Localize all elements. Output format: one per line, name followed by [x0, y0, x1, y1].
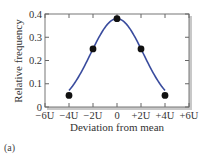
data-point	[114, 15, 121, 22]
y-tick-label: 0.1	[29, 78, 42, 89]
y-tick-label: 0.3	[29, 32, 42, 43]
x-tick-label: +6U	[180, 110, 199, 121]
x-tick-label: 0	[114, 110, 119, 121]
data-point	[66, 92, 73, 99]
chart: −6U−4U−2U0+2U+4U+6U00.10.20.30.4 Relativ…	[0, 0, 207, 159]
x-tick-label: −4U	[60, 110, 79, 121]
x-axis-title: Deviation from mean	[70, 121, 165, 133]
y-axis-title: Relative frequency	[12, 19, 24, 103]
panel-label: (a)	[4, 142, 15, 154]
x-tick-label: −2U	[84, 110, 103, 121]
x-tick-label: +4U	[156, 110, 175, 121]
x-tick-label: +2U	[132, 110, 151, 121]
y-tick-label: 0.2	[29, 55, 42, 66]
y-tick-label: 0.4	[29, 9, 43, 20]
data-point	[162, 92, 169, 99]
data-point	[90, 45, 97, 52]
data-point	[138, 45, 145, 52]
y-tick-label: 0	[37, 102, 42, 113]
